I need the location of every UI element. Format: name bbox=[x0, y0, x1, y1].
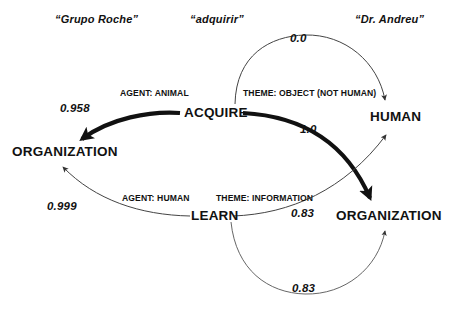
edge-layer bbox=[0, 0, 451, 318]
node-organization-left[interactable]: ORGANIZATION bbox=[12, 145, 118, 159]
node-organization-right[interactable]: ORGANIZATION bbox=[336, 209, 442, 223]
node-learn[interactable]: LEARN bbox=[191, 209, 239, 223]
role-label-agent-human: AGENT: HUMAN bbox=[122, 194, 190, 203]
edge-acquire-organization-agent bbox=[82, 113, 180, 139]
role-label-agent-animal: AGENT: ANIMAL bbox=[120, 89, 189, 98]
weight-label-0-958: 0.958 bbox=[60, 103, 90, 115]
word-label-dr-andreu: “Dr. Andreu” bbox=[355, 14, 424, 25]
edge-learn-organization-agent bbox=[63, 167, 190, 216]
edge-learn-human-theme bbox=[233, 135, 386, 216]
node-acquire[interactable]: ACQUIRE bbox=[184, 106, 248, 120]
weight-label-1-0: 1.0 bbox=[300, 124, 317, 136]
role-label-theme-information: THEME: INFORMATION bbox=[216, 194, 313, 203]
word-label-grupo-roche: “Grupo Roche” bbox=[55, 14, 138, 25]
word-label-adquirir: “adquirir” bbox=[190, 14, 244, 25]
role-label-theme-object-not-human: THEME: OBJECT (NOT HUMAN) bbox=[243, 89, 376, 98]
weight-label-0-999: 0.999 bbox=[47, 201, 77, 213]
weight-label-0-83-theme: 0.83 bbox=[291, 208, 314, 220]
node-human[interactable]: HUMAN bbox=[370, 110, 421, 124]
weight-label-0-0: 0.0 bbox=[290, 33, 307, 45]
diagram-canvas: “Grupo Roche” “adquirir” “Dr. Andreu” AC… bbox=[0, 0, 451, 318]
weight-label-0-83-bottom: 0.83 bbox=[292, 283, 315, 295]
